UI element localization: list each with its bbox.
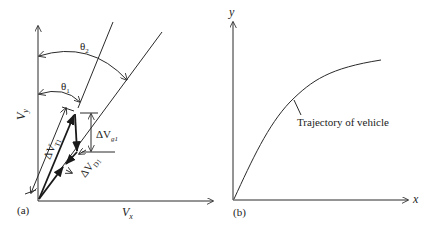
trajectory-label: Trajectory of vehicle [297, 116, 389, 128]
panel-a: θ2 θ1 Vy Vx ΔVT1 ΔVg1 ΔVD1 [14, 22, 213, 221]
panel-a-label: (a) [17, 204, 30, 217]
theta1-label: θ1 [61, 80, 70, 95]
dVg1-vector [75, 114, 77, 151]
dVg1-label: ΔVg1 [96, 128, 118, 143]
direction-line-1 [78, 22, 113, 108]
trajectory-curve [234, 60, 381, 199]
svg-text:ΔVD1: ΔVD1 [77, 153, 104, 181]
dVT1-tick-top [62, 107, 74, 111]
direction-line-2 [60, 32, 162, 170]
dVT1-label: ΔVT1 [41, 135, 64, 162]
svg-text:ΔVT1: ΔVT1 [41, 135, 64, 162]
trajectory-leader [294, 100, 301, 115]
panel-b: y x Trajectory of vehicle (b) [228, 5, 419, 219]
dVT1-tick-bottom [25, 190, 36, 194]
panel-b-label: (b) [233, 206, 246, 219]
x-axis-label: x [412, 192, 419, 206]
dVD1-dimension [66, 170, 72, 173]
vy-label: Vy [14, 109, 30, 120]
theta1-arc [39, 91, 80, 102]
svg-text:Vy: Vy [14, 109, 30, 120]
dVD1-label: ΔVD1 [77, 153, 104, 181]
figure: θ2 θ1 Vy Vx ΔVT1 ΔVg1 ΔVD1 [0, 0, 435, 230]
vx-label: Vx [122, 205, 133, 221]
y-axis-label: y [228, 5, 235, 19]
theta2-arc [39, 51, 127, 80]
